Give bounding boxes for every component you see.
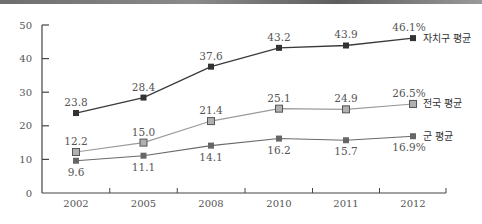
y-tick-label: 20 — [19, 120, 32, 131]
data-marker — [343, 137, 349, 143]
x-tick-label: 2012 — [400, 198, 425, 209]
data-marker — [276, 105, 283, 112]
data-marker — [208, 118, 215, 125]
data-label: 26.5% — [392, 87, 425, 99]
data-marker — [141, 95, 147, 101]
data-marker — [343, 106, 350, 113]
data-label: 43.9 — [334, 28, 357, 40]
data-marker — [410, 133, 416, 139]
series-group: 23.828.437.643.243.946.1%자치구 평균12.215.02… — [64, 21, 471, 178]
data-marker — [73, 149, 80, 156]
data-label: 37.6 — [199, 50, 223, 62]
data-label: 46.1% — [392, 21, 425, 33]
series-line — [76, 104, 413, 152]
series-line — [76, 136, 413, 161]
data-label: 11.1 — [132, 161, 155, 173]
series-line — [76, 38, 413, 113]
y-tick-label: 0 — [26, 188, 32, 199]
data-label: 16.9% — [392, 141, 425, 153]
x-tick-label: 2005 — [131, 198, 156, 209]
series-3: 9.611.114.116.215.716.9%군 평균 — [68, 131, 454, 178]
data-label: 23.8 — [64, 96, 87, 108]
data-label: 15.0 — [132, 126, 155, 138]
data-marker — [410, 35, 416, 41]
legend-label: 전국 평균 — [423, 98, 462, 109]
data-label: 28.4 — [132, 81, 156, 93]
data-label: 14.1 — [199, 151, 222, 163]
y-tick-label: 10 — [19, 154, 32, 165]
data-marker — [410, 100, 417, 107]
legend-label: 군 평균 — [423, 131, 453, 142]
data-marker — [140, 139, 147, 146]
data-label: 21.4 — [199, 104, 223, 116]
line-chart: 01020304050200220052008201020112012 23.8… — [0, 0, 482, 224]
data-label: 12.2 — [64, 135, 87, 147]
x-tick-label: 2011 — [333, 198, 358, 209]
data-marker — [276, 45, 282, 51]
data-marker — [343, 42, 349, 48]
y-tick-label: 40 — [19, 53, 32, 64]
data-marker — [208, 64, 214, 70]
data-marker — [208, 143, 214, 149]
data-marker — [73, 158, 79, 164]
y-tick-label: 50 — [19, 20, 32, 31]
axes: 01020304050200220052008201020112012 — [19, 20, 446, 210]
legend-label: 자치구 평균 — [423, 33, 471, 44]
data-label: 9.6 — [68, 166, 85, 178]
x-tick-label: 2008 — [198, 198, 223, 209]
data-label: 15.7 — [334, 145, 357, 157]
x-tick-label: 2002 — [63, 198, 88, 209]
data-marker — [141, 153, 147, 159]
x-tick-label: 2010 — [266, 198, 291, 209]
data-label: 16.2 — [267, 144, 290, 156]
y-tick-label: 30 — [19, 87, 32, 98]
data-marker — [73, 110, 79, 116]
data-marker — [276, 136, 282, 142]
data-label: 24.9 — [334, 92, 357, 104]
data-label: 43.2 — [267, 31, 290, 43]
data-label: 25.1 — [267, 92, 290, 104]
